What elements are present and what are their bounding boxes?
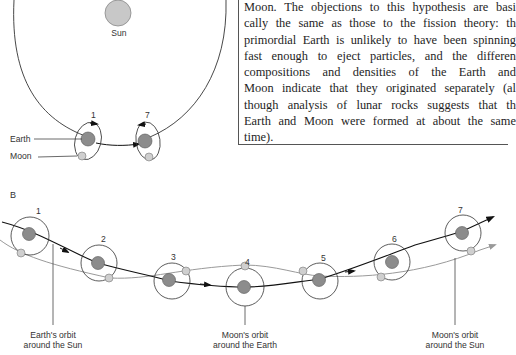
position-label-5: 5 — [321, 253, 326, 263]
callout-moon-orbit-earth: Moon's orbit around the Earth — [200, 330, 290, 350]
earth-icon — [163, 274, 176, 287]
earth-position-3 — [154, 263, 190, 299]
panel-a — [14, 0, 226, 163]
position-label-6: 6 — [392, 234, 397, 244]
text-line: compositions and densities of the Earth … — [244, 64, 516, 80]
earth-icon — [313, 274, 326, 287]
position-label-4: 4 — [245, 257, 250, 267]
earth-icon — [238, 281, 251, 294]
earth-icon — [92, 257, 105, 270]
earth-icon — [138, 134, 152, 148]
moon-icon — [299, 267, 307, 275]
text-line: Moon indicate that they originated separ… — [244, 80, 516, 96]
moon-icon — [145, 153, 153, 161]
panel-b-label: B — [10, 190, 16, 200]
position-label-7: 7 — [458, 205, 463, 215]
earth-icon — [456, 227, 469, 240]
moon-icon — [182, 267, 190, 275]
earth-position-2 — [81, 245, 117, 282]
earth-position-7 — [133, 121, 162, 162]
sun-icon — [105, 0, 131, 26]
body-text: Moon. The objections to this hypothesis … — [244, 0, 516, 146]
earth-icon — [386, 256, 399, 269]
callout-moon-orbit-sun: Moon's orbit around the Sun — [415, 330, 495, 350]
earth-label: Earth — [10, 134, 31, 144]
text-line: primordial Earth is unlikely to have bee… — [244, 32, 516, 48]
earth-icon — [23, 228, 36, 241]
earth-position-4 — [226, 262, 264, 306]
earth-icon — [81, 132, 95, 146]
moon-label: Moon — [10, 151, 32, 161]
moon-icon — [78, 152, 86, 160]
position-label-1: 1 — [36, 206, 41, 216]
text-line: Moon. The objections to this hypothesis … — [244, 0, 516, 15]
position-label-3: 3 — [171, 252, 176, 262]
text-line: though analysis of lunar rocks suggests … — [244, 97, 516, 113]
moon-icon — [105, 274, 113, 282]
text-line: fast enough to eject particles, and the … — [244, 48, 516, 64]
moon-icon — [467, 247, 475, 255]
sun-label: Sun — [104, 28, 134, 38]
position-label-1: 1 — [91, 110, 96, 120]
text-line: time). — [244, 129, 516, 145]
position-label-7: 7 — [145, 110, 150, 120]
text-line: cally the same as those to the fission t… — [244, 15, 516, 31]
earth-sun-orbit — [2, 217, 493, 287]
text-line: Earth and Moon were formed at about the … — [244, 113, 516, 129]
position-label-2: 2 — [101, 234, 106, 244]
panel-b — [0, 215, 495, 325]
earth-position-6 — [374, 244, 410, 281]
callout-earth-orbit-sun: Earth's orbit around the Sun — [13, 330, 93, 350]
moon-icon — [17, 249, 25, 257]
moon-icon — [377, 273, 385, 281]
